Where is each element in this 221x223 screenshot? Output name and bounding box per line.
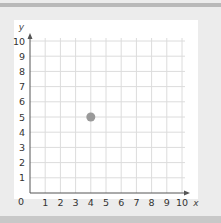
y-tick-label: 2: [19, 157, 25, 168]
x-tick-label: 10: [176, 197, 188, 208]
y-tick-label: 6: [19, 96, 25, 107]
x-axis-arrow-icon: [184, 191, 190, 196]
x-tick-label: 2: [57, 197, 63, 208]
y-tick-label: 3: [19, 142, 25, 153]
y-tick-label: 10: [13, 36, 25, 47]
coordinate-grid-chart: 12345678910123456789100xy: [0, 0, 221, 223]
origin-label: 0: [18, 196, 24, 207]
y-tick-label: 1: [19, 172, 25, 183]
x-tick-label: 7: [133, 197, 139, 208]
x-tick-label: 8: [149, 197, 155, 208]
y-tick-label: 5: [19, 112, 25, 123]
y-tick-label: 7: [19, 81, 25, 92]
x-axis-label: x: [192, 198, 199, 208]
y-axis-label: y: [18, 22, 25, 32]
x-tick-label: 3: [73, 197, 79, 208]
y-tick-label: 9: [19, 51, 25, 62]
y-tick-label: 8: [19, 66, 25, 77]
data-point: [86, 113, 95, 122]
x-tick-label: 5: [103, 197, 109, 208]
x-tick-label: 1: [42, 197, 48, 208]
y-axis-arrow-icon: [28, 33, 33, 39]
y-tick-label: 4: [19, 127, 25, 138]
x-tick-label: 4: [88, 197, 94, 208]
x-tick-label: 6: [118, 197, 124, 208]
x-tick-label: 9: [164, 197, 170, 208]
